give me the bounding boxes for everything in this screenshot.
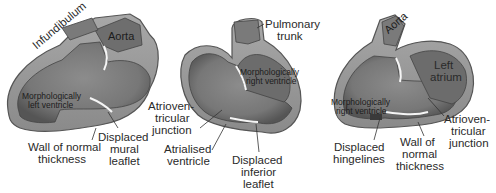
label-left-leaflet-1: Displaced [98,131,149,143]
left-heart-figure [8,14,159,140]
label-right-wall-2: normal [402,148,437,160]
label-middle-trunk-2: trunk [277,30,303,42]
label-right-atrium-2: atrium [430,71,462,83]
label-left-leaflet-3: leaflet [109,155,140,167]
middle-pulmonary-trunk [234,20,260,44]
label-left-wall-1: Wall of normal [28,141,101,153]
label-left-wall-2: thickness [38,153,86,165]
label-left-aorta: Aorta [108,32,134,41]
label-middle-atrialised-2: ventricle [167,155,210,167]
label-right-hinge-2: hingelines [333,153,385,165]
label-left-chamber-2: left ventricle [28,101,73,110]
label-middle-av-1: Atrioven- [148,100,194,112]
label-right-av-3: junction [449,137,489,149]
label-middle-leaflet-1: Displaced [232,154,283,166]
label-right-av-2: tricular [451,125,486,137]
label-right-av-1: Atrioven- [444,113,490,125]
label-middle-atrialised-1: Atrialised [164,143,211,155]
label-right-atrium-1: Left [434,59,453,71]
label-right-wall-3: thickness [396,160,444,172]
label-middle-av-2: tricular [155,112,190,124]
label-middle-leaflet-2: inferior [241,166,276,178]
label-middle-leaflet-3: leaflet [243,178,274,190]
label-left-leaflet-2: mural [110,143,139,155]
label-right-wall-1: Wall of [400,136,435,148]
label-middle-av-3: junction [152,124,192,136]
label-middle-trunk-1: Pulmonary [265,18,320,30]
label-right-hinge-1: Displaced [334,141,385,153]
label-right-chamber-2: right ventricle [336,107,387,116]
label-middle-chamber-2: right ventricle [246,77,297,86]
